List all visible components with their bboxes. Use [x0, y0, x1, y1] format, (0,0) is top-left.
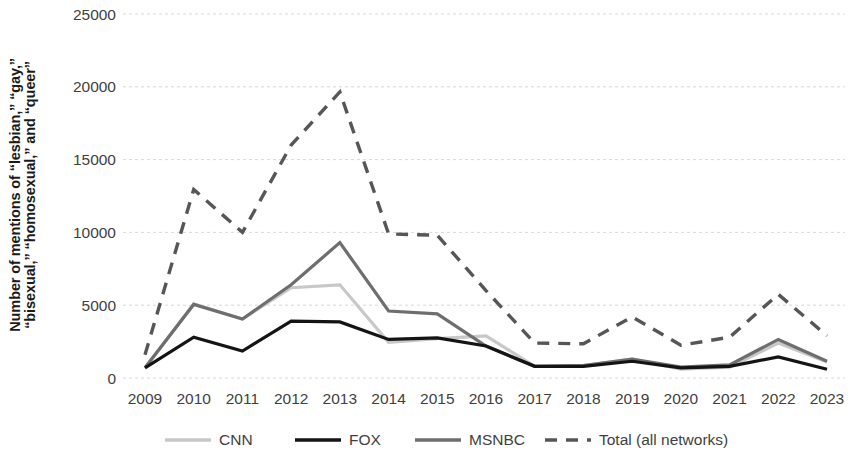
data-series — [145, 92, 827, 369]
y-axis-tick-label: 5000 — [82, 297, 117, 314]
gridlines — [123, 14, 845, 378]
x-axis-tick-label: 2013 — [323, 390, 357, 407]
y-axis-tick-label: 25000 — [73, 6, 116, 23]
x-axis-ticks: 2009201020112012201320142015201620172018… — [128, 390, 844, 407]
x-axis-tick-label: 2017 — [517, 390, 551, 407]
x-axis-tick-label: 2018 — [566, 390, 600, 407]
legend-label-fox[interactable]: FOX — [349, 431, 382, 448]
x-axis-tick-label: 2020 — [664, 390, 699, 407]
series-line-cnn — [145, 285, 827, 369]
y-axis-tick-label: 10000 — [73, 224, 116, 241]
line-chart-plot: 0500010000150002000025000 20092010201120… — [0, 0, 853, 461]
x-axis-tick-label: 2021 — [712, 390, 746, 407]
legend-label-cnn[interactable]: CNN — [219, 431, 253, 448]
y-axis-ticks: 0500010000150002000025000 — [73, 6, 116, 387]
y-axis-tick-label: 20000 — [73, 78, 116, 95]
series-line-fox — [145, 321, 827, 369]
legend-label-msnbc[interactable]: MSNBC — [469, 431, 525, 448]
x-axis-tick-label: 2011 — [226, 390, 259, 407]
y-axis-tick-label: 0 — [107, 370, 116, 387]
chart-figure: Number of mentions of “lesbian,” “gay,” … — [0, 0, 853, 461]
x-axis-tick-label: 2010 — [176, 390, 211, 407]
y-axis-tick-label: 15000 — [73, 151, 116, 168]
x-axis-tick-label: 2014 — [371, 390, 406, 407]
x-axis-tick-label: 2009 — [128, 390, 162, 407]
x-axis-tick-label: 2016 — [469, 390, 503, 407]
legend-label-total-all-networks[interactable]: Total (all networks) — [599, 431, 728, 448]
x-axis-tick-label: 2015 — [420, 390, 454, 407]
chart-legend: CNNFOXMSNBCTotal (all networks) — [165, 431, 728, 448]
x-axis-tick-label: 2023 — [810, 390, 844, 407]
x-axis-tick-label: 2019 — [615, 390, 649, 407]
x-axis-tick-label: 2022 — [761, 390, 795, 407]
x-axis-tick-label: 2012 — [274, 390, 308, 407]
